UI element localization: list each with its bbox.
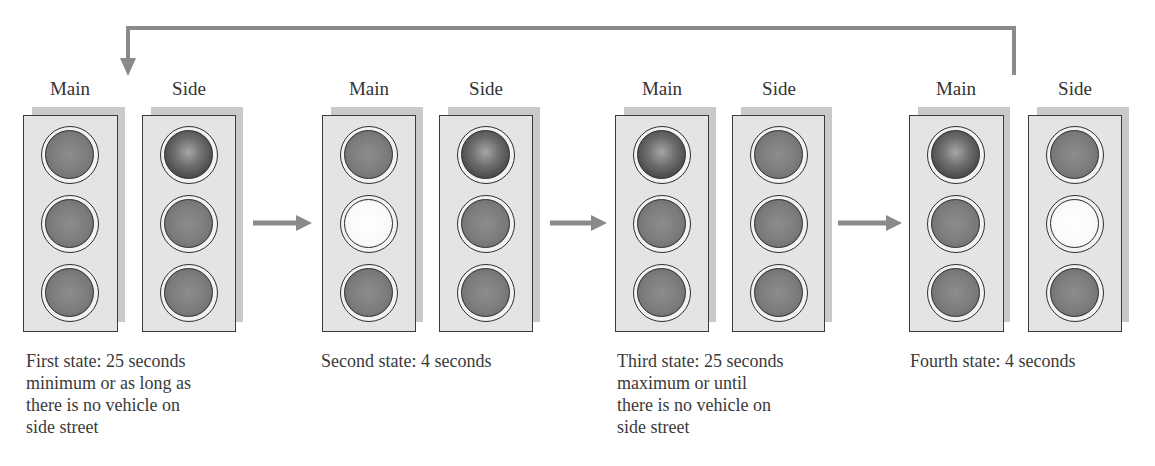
side-red-lamp — [160, 126, 218, 184]
arrow-state3-to-state4 — [838, 215, 902, 231]
state-3-caption: Third state: 25 seconds maximum or until… — [617, 350, 783, 438]
main-yellow-lamp — [41, 195, 99, 253]
side-green-lamp — [160, 264, 218, 322]
side-yellow-lamp — [1046, 195, 1104, 253]
main-green-lamp — [41, 264, 99, 322]
side-signal-housing — [732, 115, 825, 332]
side-yellow-lamp — [160, 195, 218, 253]
side-signal-housing — [1028, 115, 1122, 332]
main-green-lamp — [340, 264, 398, 322]
main-red-lamp — [340, 126, 398, 184]
main-signal-housing — [909, 115, 1004, 332]
main-red-lamp — [927, 126, 985, 184]
main-signal-housing — [615, 115, 709, 332]
side-signal-label: Side — [142, 78, 236, 100]
state-1-caption: First state: 25 seconds minimum or as lo… — [26, 350, 191, 438]
main-red-lamp — [41, 126, 99, 184]
side-yellow-lamp — [750, 195, 808, 253]
main-yellow-lamp — [927, 195, 985, 253]
main-yellow-lamp — [633, 195, 691, 253]
side-signal-label: Side — [1028, 78, 1122, 100]
arrow-state4-to-state1-feedback — [120, 28, 1014, 76]
side-signal-label: Side — [732, 78, 826, 100]
state-2-caption: Second state: 4 seconds — [321, 350, 491, 372]
arrow-state1-to-state2 — [253, 215, 312, 231]
side-signal-label: Side — [439, 78, 533, 100]
side-green-lamp — [457, 264, 515, 322]
main-red-lamp — [633, 126, 691, 184]
main-signal-label: Main — [23, 78, 117, 100]
side-yellow-lamp — [457, 195, 515, 253]
main-signal-label: Main — [615, 78, 709, 100]
main-signal-housing — [322, 115, 416, 332]
side-signal-housing — [142, 115, 236, 332]
main-yellow-lamp — [340, 195, 398, 253]
main-green-lamp — [927, 264, 985, 322]
arrow-state2-to-state3 — [550, 215, 607, 231]
side-red-lamp — [750, 126, 808, 184]
main-signal-housing — [23, 115, 118, 332]
traffic-light-state-diagram: Main Side First state: 25 seconds minimu… — [0, 0, 1155, 466]
side-red-lamp — [457, 126, 515, 184]
main-signal-label: Main — [909, 78, 1003, 100]
side-green-lamp — [1046, 264, 1104, 322]
side-signal-housing — [439, 115, 533, 332]
state-4-caption: Fourth state: 4 seconds — [910, 350, 1075, 372]
side-green-lamp — [750, 264, 808, 322]
side-red-lamp — [1046, 126, 1104, 184]
main-green-lamp — [633, 264, 691, 322]
main-signal-label: Main — [322, 78, 416, 100]
